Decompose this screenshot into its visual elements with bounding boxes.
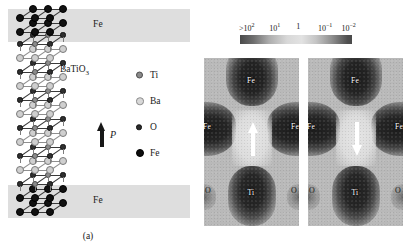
lattice-atom-ba xyxy=(31,138,39,146)
displacement-vector xyxy=(63,93,64,98)
lattice-atom-fe xyxy=(16,14,25,23)
colorbar-group: >102101110−110−2 xyxy=(240,22,352,44)
lattice-atom-fe xyxy=(59,19,68,28)
polarization-arrow-shaft xyxy=(100,130,104,147)
lattice-atom-ba xyxy=(16,110,24,118)
panel-b-charge-density-maps: >102101110−110−2 Fe Fe Fe Ti O O xyxy=(200,0,410,249)
ti-atom-icon xyxy=(136,72,143,79)
displacement-vector xyxy=(35,102,36,107)
displacement-vector xyxy=(48,121,49,126)
lattice-atom-ba xyxy=(31,166,39,174)
panel-a-crystal-structure: Fe Fe BaTiO3 P Ti Ba O Fe xyxy=(0,0,200,249)
fe-atom-icon xyxy=(136,149,144,157)
lattice-atom-ba xyxy=(31,54,39,62)
displacement-vector xyxy=(50,46,51,51)
colorbar-tick-exponent-3: −1 xyxy=(326,22,332,28)
displacement-vector xyxy=(63,37,64,42)
legend-label-o: O xyxy=(150,122,157,132)
legend-row-ba: Ba xyxy=(136,88,194,114)
legend-row-ti: Ti xyxy=(136,62,194,88)
legend-label-fe: Fe xyxy=(150,148,160,158)
lattice-atom-ba xyxy=(59,101,67,109)
lattice-atom-ba xyxy=(31,110,39,118)
displacement-vector xyxy=(63,177,64,182)
lattice-atom-ba xyxy=(59,73,67,81)
legend-row-fe: Fe xyxy=(136,140,194,166)
colorbar-tick-0: >102 xyxy=(239,22,255,33)
lattice-atom-fe xyxy=(44,5,53,14)
arrow-shaft-up xyxy=(251,132,255,156)
colorbar-tick-exponent-4: −2 xyxy=(349,22,355,28)
displacement-vector xyxy=(35,186,36,191)
displacement-vector xyxy=(50,102,51,107)
lattice-atom-ba xyxy=(16,166,24,174)
lattice-atom-ba xyxy=(59,45,67,53)
arrow-head-down xyxy=(352,145,362,156)
lattice-atom-ba xyxy=(46,138,54,146)
map-label-fe-top: Fe xyxy=(247,76,255,85)
map-label-fe-left: Fe xyxy=(204,122,211,131)
density-map-left: Fe Fe Fe Ti O O xyxy=(204,58,299,226)
colorbar-tick-3: 10−1 xyxy=(318,22,332,33)
lattice-atom-ba xyxy=(59,157,67,165)
colorbar-gradient xyxy=(240,35,352,44)
o-atom-icon xyxy=(136,124,142,130)
displacement-vector xyxy=(20,158,21,163)
lattice-atom-ba xyxy=(31,82,39,90)
species-legend: Ti Ba O Fe xyxy=(136,62,194,166)
displacement-vector xyxy=(33,177,34,182)
map-label-fe-right: Fe xyxy=(291,122,299,131)
displacement-vector xyxy=(33,65,34,70)
fe-label-bottom: Fe xyxy=(93,195,103,205)
density-map-right: Fe Fe Fe Ti O O xyxy=(308,58,403,226)
displacement-vector xyxy=(48,93,49,98)
displacement-vector xyxy=(20,130,21,135)
crystal-lattice-diagram xyxy=(14,8,94,220)
displacement-vector xyxy=(50,186,51,191)
lattice-atom-fe xyxy=(31,208,40,217)
arrow-shaft-down xyxy=(355,122,359,146)
displacement-vector xyxy=(50,74,51,79)
displacement-vector xyxy=(48,177,49,182)
lattice-atom-fe xyxy=(46,194,55,203)
displacement-vector xyxy=(33,121,34,126)
colorbar-tick-4: 10−2 xyxy=(341,22,355,33)
map-label-o-right: O xyxy=(291,186,297,195)
lattice-atom-ba xyxy=(16,138,24,146)
figure-root: Fe Fe BaTiO3 P Ti Ba O Fe xyxy=(0,0,410,249)
displacement-vector xyxy=(48,37,49,42)
displacement-vector xyxy=(20,74,21,79)
lattice-atom-ba xyxy=(16,82,24,90)
displacement-vector xyxy=(50,158,51,163)
lattice-atom-fe xyxy=(46,14,55,23)
polarization-symbol-label: P xyxy=(110,129,116,140)
displacement-vector xyxy=(63,65,64,70)
lattice-atom-ba xyxy=(46,54,54,62)
polarization-arrow-icon xyxy=(97,122,106,147)
displacement-vector xyxy=(20,46,21,51)
map-label-o-right: O xyxy=(395,186,401,195)
displacement-vector xyxy=(35,130,36,135)
displacement-vector xyxy=(33,149,34,154)
map-label-o-left: O xyxy=(309,186,315,195)
colorbar-tick-1: 101 xyxy=(269,22,280,33)
lattice-atom-fe xyxy=(16,194,25,203)
displacement-vector xyxy=(33,37,34,42)
lattice-atom-ba xyxy=(46,166,54,174)
legend-label-ba: Ba xyxy=(150,96,161,106)
displacement-vector xyxy=(35,158,36,163)
lattice-atom-fe xyxy=(16,208,25,217)
displacement-vector xyxy=(33,93,34,98)
lattice-atom-ba xyxy=(46,110,54,118)
lattice-atom-fe xyxy=(59,5,68,14)
lattice-atom-ba xyxy=(46,82,54,90)
lattice-atom-fe xyxy=(31,14,40,23)
displacement-vector xyxy=(48,149,49,154)
lattice-atom-fe xyxy=(31,194,40,203)
map-label-fe-top: Fe xyxy=(351,76,359,85)
colorbar-tick-exponent-0: 2 xyxy=(251,22,254,28)
lattice-atom-ba xyxy=(16,54,24,62)
lattice-atom-fe xyxy=(46,208,55,217)
displacement-vector xyxy=(63,149,64,154)
colorbar-tick-exponent-1: 1 xyxy=(277,22,280,28)
